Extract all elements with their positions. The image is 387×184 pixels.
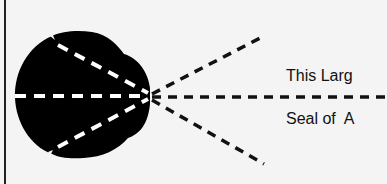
label-bottom: Seal of A xyxy=(286,111,355,127)
label-top: This Larg xyxy=(286,68,353,84)
outer-dashed-rays xyxy=(152,36,387,164)
seal-diagram: This Larg Seal of A xyxy=(0,0,387,184)
seal-figure xyxy=(0,0,387,184)
